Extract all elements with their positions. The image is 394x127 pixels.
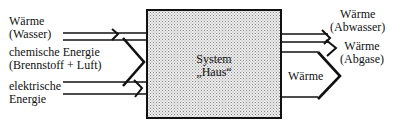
- label-elektrische-energie: elektrische Energie: [9, 80, 61, 106]
- input-arrow-waerme-wasser: [63, 29, 147, 40]
- label-waerme-abwasser: Wärme (Abwasser): [330, 8, 385, 34]
- energy-flow-diagram: Wärme (Wasser) chemische Energie (Brenns…: [0, 0, 394, 127]
- output-arrow-waerme-abwasser: [281, 30, 330, 44]
- input-arrow-elektrische-energie: [63, 80, 147, 97]
- label-line: Energie: [9, 93, 61, 106]
- label-line: (Brennstoff + Luft): [9, 59, 102, 72]
- label-system-haus: System „Haus“: [196, 53, 232, 79]
- label-waerme-wasser: Wärme (Wasser): [9, 15, 51, 41]
- label-chemische-energie: chemische Energie (Brennstoff + Luft): [9, 46, 102, 72]
- input-arrow-chemische-energie: [123, 38, 144, 86]
- label-line: (Abgase): [340, 53, 384, 66]
- label-waerme-abgase: Wärme (Abgase): [340, 40, 384, 66]
- label-line: „Haus“: [196, 66, 232, 79]
- label-line: (Wasser): [9, 28, 51, 41]
- label-line: (Abwasser): [330, 21, 385, 34]
- label-waerme: Wärme: [288, 70, 323, 83]
